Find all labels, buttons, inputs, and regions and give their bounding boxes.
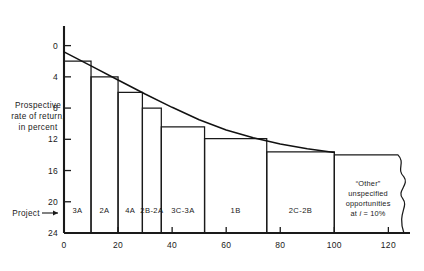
investment-opportunity-chart: 242016128400204060801001203A2A4A2B-2A3C-…	[0, 0, 424, 271]
project-arrow-head	[53, 211, 58, 216]
y-tick-label: 4	[53, 72, 58, 82]
y-tick-label: 16	[48, 166, 58, 176]
x-tick-label: 20	[113, 240, 123, 250]
other-block-line-3: opportunities	[346, 199, 391, 208]
bar-label-2B-2A: 2B-2A	[140, 206, 164, 215]
other-block-line-4: at i = 10%	[351, 209, 386, 218]
project-label: Project	[12, 209, 40, 218]
y-tick-label: 12	[48, 134, 58, 144]
bar-2C-2B	[267, 152, 335, 233]
chart-canvas: 242016128400204060801001203A2A4A2B-2A3C-…	[0, 0, 424, 271]
x-tick-label: 100	[327, 240, 342, 250]
x-tick-label: 120	[381, 240, 396, 250]
x-tick-label: 60	[221, 240, 231, 250]
bar-label-3C-3A: 3C-3A	[171, 206, 195, 215]
bar-label-4A: 4A	[125, 206, 136, 215]
y-tick-label: 0	[53, 41, 58, 51]
x-tick-label: 40	[167, 240, 177, 250]
bar-3C-3A	[161, 127, 204, 233]
y-axis-title-line-2: rate of return,	[11, 112, 65, 121]
y-axis-title-line-1: Prospective	[15, 101, 61, 110]
bar-label-2C-2B: 2C-2B	[289, 206, 313, 215]
other-block-line-2: unspecified	[348, 189, 388, 198]
y-tick-label: 20	[48, 197, 58, 207]
bar-label-1B: 1B	[231, 206, 241, 215]
x-tick-label: 0	[61, 240, 66, 250]
y-axis-title-line-3: in percent	[19, 123, 58, 132]
x-tick-label: 80	[275, 240, 285, 250]
y-tick-label: 24	[48, 228, 58, 238]
other-block-line-1: “Other”	[356, 179, 381, 188]
bar-1B	[205, 139, 267, 233]
bar-label-3A: 3A	[72, 206, 83, 215]
opportunity-curve	[64, 52, 334, 153]
bar-label-2A: 2A	[100, 206, 111, 215]
